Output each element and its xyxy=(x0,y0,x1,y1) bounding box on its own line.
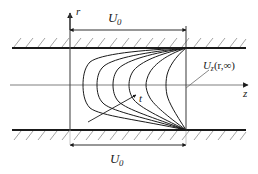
velocity-profile-curve-6-steady xyxy=(166,48,186,130)
label-uz-symbol: U xyxy=(203,59,211,71)
pipe-flow-velocity-profile-figure: U0 U0 r z Uz(r,∞) t xyxy=(0,0,258,174)
velocity-profile-curve-4 xyxy=(129,48,186,130)
velocity-profile-curve-2 xyxy=(97,48,186,130)
label-u0-bottom: U0 xyxy=(110,152,124,165)
label-z-axis: z xyxy=(243,88,247,99)
label-u0-bottom-subscript: 0 xyxy=(119,158,123,168)
label-u0-top: U0 xyxy=(108,11,122,24)
wall-hatching-bottom xyxy=(14,131,246,140)
wall-hatching-top xyxy=(14,38,246,47)
label-uz-arguments: (r,∞) xyxy=(214,59,235,71)
label-t-time: t xyxy=(139,93,142,104)
label-uz-subscript: z xyxy=(211,64,214,73)
label-u0-top-symbol: U xyxy=(108,10,117,25)
label-u0-top-subscript: 0 xyxy=(117,17,121,27)
figure-drawing-canvas xyxy=(0,0,258,174)
label-u0-bottom-symbol: U xyxy=(110,151,119,166)
velocity-profile-curves xyxy=(83,48,186,130)
label-r-axis: r xyxy=(76,6,80,17)
label-uz-profile: Uz(r,∞) xyxy=(203,60,235,71)
